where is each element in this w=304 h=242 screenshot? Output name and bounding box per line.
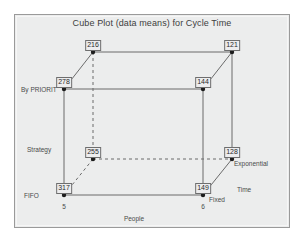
cube-hidden-edges bbox=[64, 52, 232, 195]
time-high-level-label: Exponential bbox=[234, 160, 268, 167]
cube-vertices bbox=[62, 50, 234, 197]
vertex-value-label: 121 bbox=[224, 40, 240, 51]
vertex-value-label: 149 bbox=[195, 183, 211, 194]
cube-plot-image: Cube Plot (data means) for Cycle Time bbox=[0, 0, 304, 242]
vertex-value-label: 255 bbox=[85, 147, 101, 158]
people-axis-label: People bbox=[124, 215, 144, 222]
people-tick-high: 6 bbox=[201, 203, 205, 210]
people-tick-low: 5 bbox=[62, 203, 66, 210]
time-axis-label: Time bbox=[237, 186, 251, 193]
strategy-high-level-label: By PRIORIT bbox=[21, 86, 57, 93]
time-low-level-label: Fixed bbox=[209, 196, 225, 203]
vertex-value-label: 144 bbox=[195, 77, 211, 88]
vertex-value-label: 216 bbox=[85, 40, 101, 51]
strategy-axis-label: Strategy bbox=[27, 146, 51, 153]
cube-wireframe bbox=[14, 14, 290, 228]
vertex-value-label: 317 bbox=[56, 183, 72, 194]
strategy-low-level-label: FIFO bbox=[24, 192, 39, 199]
vertex-value-label: 278 bbox=[56, 77, 72, 88]
cube-visible-edges bbox=[64, 52, 232, 195]
vertex-value-label: 128 bbox=[224, 147, 240, 158]
